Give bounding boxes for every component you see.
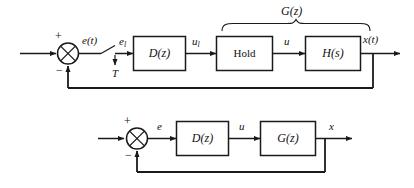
upper-block-hold-label: Hold	[217, 48, 273, 59]
upper-signal-u-sampled-subscript: l	[198, 40, 200, 49]
upper-signal-u: u	[284, 36, 290, 47]
block-diagram-figure: + − e(t) T el D(z) ul Hold u H(s) x(t) G…	[0, 0, 414, 188]
upper-block-dz-label: D(z)	[134, 47, 186, 59]
lower-signal-x: x	[329, 121, 334, 132]
upper-sample-period-label: T	[112, 68, 118, 79]
upper-sum-plus-sign: +	[55, 30, 62, 42]
lower-block-gz-label: G(z)	[261, 132, 316, 144]
upper-signal-x-of-t: x(t)	[363, 34, 378, 45]
upper-block-hs-label: H(s)	[306, 47, 361, 59]
lower-signal-e: e	[157, 121, 162, 132]
sampler-switch-blade	[101, 46, 115, 54]
upper-gz-brace-label: G(z)	[281, 5, 302, 17]
lower-sum-minus-sign: −	[125, 149, 132, 161]
upper-signal-e-sampled-subscript: l	[124, 40, 126, 49]
diagram-canvas	[0, 0, 414, 188]
upper-signal-e-sampled: el	[119, 36, 126, 49]
lower-signal-u: u	[239, 121, 245, 132]
upper-gz-brace	[222, 20, 370, 32]
lower-block-dz-label: D(z)	[177, 132, 229, 144]
upper-signal-e-of-t: e(t)	[82, 35, 97, 46]
lower-sum-plus-sign: +	[124, 115, 131, 127]
upper-sum-minus-sign: −	[56, 64, 63, 76]
upper-signal-u-sampled: ul	[192, 36, 200, 49]
